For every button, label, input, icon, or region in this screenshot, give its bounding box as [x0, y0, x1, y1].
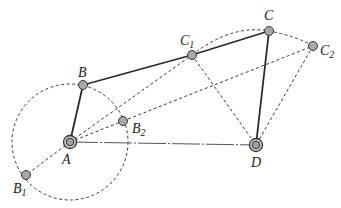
label-D: D [250, 155, 261, 170]
diagram-canvas: B A B1 B2 C1 C C2 D [0, 0, 341, 208]
label-B2: B2 [132, 121, 146, 138]
solid-links [70, 31, 269, 145]
joint-B2 [119, 117, 128, 126]
label-C2: C2 [320, 43, 334, 60]
line-A-B2 [70, 121, 123, 142]
coupler-point-arc [192, 30, 313, 55]
joint-C [265, 27, 274, 36]
link-B-C1 [83, 55, 192, 85]
label-C1: C1 [180, 33, 194, 50]
pivot-A-inner [66, 138, 74, 146]
line-C2-D [256, 46, 313, 145]
pivot-D-inner [252, 141, 260, 149]
label-A: A [61, 152, 71, 167]
joint-B [79, 81, 88, 90]
link-C1-C [192, 31, 269, 55]
line-C1-D [192, 55, 256, 145]
link-A-B [70, 85, 83, 142]
joint-C1 [188, 51, 197, 60]
label-B: B [78, 65, 87, 80]
link-C-D [256, 31, 269, 145]
label-B1: B1 [13, 181, 27, 198]
line-A-C1 [70, 55, 192, 142]
four-bar-linkage-diagram: B A B1 B2 C1 C C2 D [0, 0, 341, 208]
joint-B1 [22, 171, 31, 180]
ground-line-A-D [70, 142, 256, 145]
label-C: C [264, 8, 274, 23]
joint-C2 [309, 42, 318, 51]
